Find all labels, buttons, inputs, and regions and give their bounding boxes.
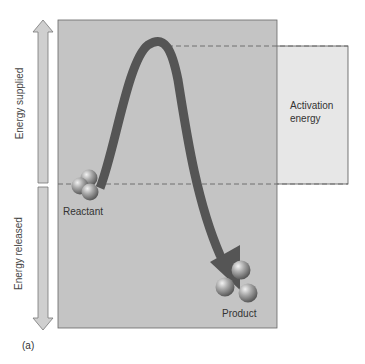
activation-label-line2: energy [290, 113, 333, 126]
energy-supplied-label: Energy supplied [14, 64, 25, 144]
energy-supplied-arrow [33, 20, 53, 183]
energy-released-arrow [33, 187, 53, 330]
panel-label: (a) [22, 340, 34, 353]
energy-diagram [0, 0, 365, 364]
activation-energy-label: Activation energy [290, 100, 333, 125]
energy-released-label: Energy released [13, 214, 24, 294]
reactant-label: Reactant [63, 206, 103, 219]
product-label: Product [222, 308, 256, 321]
activation-label-line1: Activation [290, 100, 333, 113]
